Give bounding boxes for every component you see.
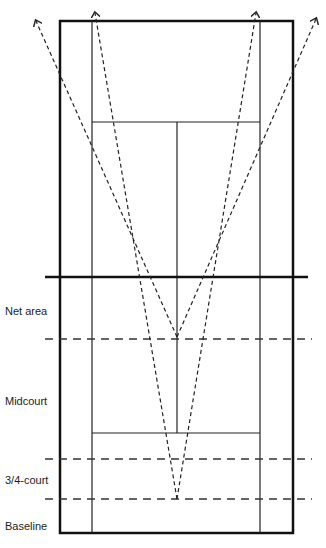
- tennis-court-diagram: [0, 0, 326, 548]
- zone-label-three-quarter-court: 3/4-court: [5, 474, 48, 487]
- zone-label-baseline: Baseline: [5, 520, 47, 533]
- angle-arrow-net-right: [177, 19, 316, 337]
- angle-arrow-net-left: [36, 21, 177, 337]
- angle-arrow-baseline-right: [177, 13, 256, 499]
- angle-arrow-baseline-left: [95, 13, 177, 499]
- zone-label-net-area: Net area: [5, 305, 47, 318]
- zone-label-midcourt: Midcourt: [5, 395, 47, 408]
